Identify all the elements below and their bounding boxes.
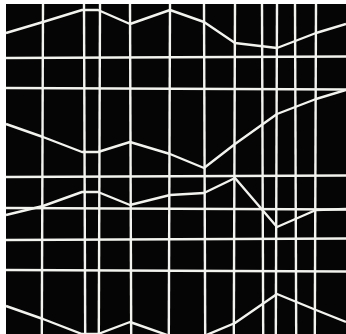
horizontal-line: [6, 57, 346, 59]
vertical-line: [99, 4, 100, 334]
horizontal-line: [6, 239, 346, 241]
vertical-line: [130, 4, 131, 334]
vertical-line: [295, 4, 296, 334]
vertical-line: [276, 4, 277, 334]
vertical-line: [84, 4, 85, 334]
vertical-line: [42, 4, 43, 334]
horizontal-line: [6, 176, 346, 178]
geometric-line-artwork: [0, 0, 346, 334]
vertical-line: [262, 4, 263, 334]
vertical-line: [234, 4, 235, 334]
vertical-line: [315, 4, 316, 334]
horizontal-line: [6, 208, 346, 210]
vertical-line: [169, 4, 170, 334]
horizontal-line: [6, 270, 346, 272]
horizontal-line: [6, 88, 346, 90]
